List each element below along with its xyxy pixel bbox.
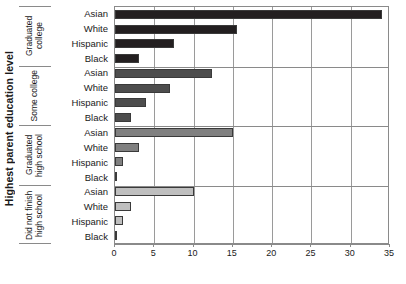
x-tick-label-0: 0: [111, 248, 116, 258]
group-label-text: Did not finish high school: [25, 187, 45, 243]
x-tick-mark-30: [350, 244, 351, 247]
bar-row: [115, 51, 388, 66]
category-group-graduated-high-school: AsianWhiteHispanicBlack: [52, 125, 112, 185]
category-label-asian: Asian: [52, 6, 112, 21]
bar-graduated-high-school-black: [115, 172, 117, 181]
bar-did-not-finish-high-school-asian: [115, 187, 194, 196]
bar-row: [115, 155, 388, 170]
x-tick-mark-10: [193, 244, 194, 247]
category-group-graduated-college: AsianWhiteHispanicBlack: [52, 6, 112, 66]
group-separator: [115, 126, 388, 127]
bars-container: [115, 7, 388, 243]
category-group-did-not-finish-high-school: AsianWhiteHispanicBlack: [52, 185, 112, 245]
bar-graduated-college-hispanic: [115, 39, 174, 48]
bar-graduated-high-school-white: [115, 143, 139, 152]
y-axis-title-label: Highest parent education level: [3, 51, 15, 206]
bar-graduated-college-black: [115, 54, 139, 63]
x-tick-mark-15: [232, 244, 233, 247]
bar-some-college-white: [115, 84, 170, 93]
category-label-hispanic: Hispanic: [52, 214, 112, 229]
category-label-hispanic: Hispanic: [52, 95, 112, 110]
bar-did-not-finish-high-school-black: [115, 231, 117, 240]
category-label-asian: Asian: [52, 125, 112, 140]
x-tick-label-10: 10: [188, 248, 198, 258]
category-label-white: White: [52, 199, 112, 214]
category-label-asian: Asian: [52, 185, 112, 200]
bar-row: [115, 214, 388, 229]
bar-row: [115, 125, 388, 140]
group-separator: [115, 186, 388, 187]
group-label-graduated-college: Graduated college: [19, 6, 51, 66]
bar-row: [115, 199, 388, 214]
x-tick-mark-5: [153, 244, 154, 247]
bar-row: [115, 66, 388, 81]
category-label-black: Black: [52, 170, 112, 185]
bar-graduated-high-school-asian: [115, 128, 233, 137]
group-label-text: Graduated college: [25, 8, 45, 64]
bar-row: [115, 7, 388, 22]
x-tick-mark-0: [114, 244, 115, 247]
y-axis-title: Highest parent education level: [0, 0, 18, 258]
bar-row: [115, 96, 388, 111]
group-label-graduated-high-school: Graduated high school: [19, 125, 51, 185]
category-label-column: AsianWhiteHispanicBlackAsianWhiteHispani…: [52, 6, 112, 244]
group-label-some-college: Some college: [19, 66, 51, 126]
bar-row: [115, 22, 388, 37]
group-label-text: Graduated high school: [25, 127, 45, 183]
x-tick-label-20: 20: [266, 248, 276, 258]
group-label-did-not-finish-high-school: Did not finish high school: [19, 185, 51, 245]
bar-chart: Highest parent education level Graduated…: [0, 0, 406, 284]
x-tick-label-5: 5: [151, 248, 156, 258]
x-tick-label-30: 30: [345, 248, 355, 258]
bar-graduated-college-white: [115, 25, 237, 34]
bar-row: [115, 110, 388, 125]
x-tick-label-35: 35: [384, 248, 394, 258]
category-label-black: Black: [52, 51, 112, 66]
bar-group-graduated-high-school: [115, 125, 388, 184]
bar-row: [115, 37, 388, 52]
category-label-black: Black: [52, 229, 112, 244]
category-label-white: White: [52, 140, 112, 155]
bar-group-some-college: [115, 66, 388, 125]
bar-group-graduated-college: [115, 7, 388, 66]
bar-row: [115, 140, 388, 155]
bar-graduated-college-asian: [115, 10, 382, 19]
category-label-white: White: [52, 21, 112, 36]
group-label-column: Graduated collegeSome collegeGraduated h…: [19, 6, 51, 244]
x-axis-ticks: 05101520253035: [114, 244, 389, 262]
x-tick-label-25: 25: [305, 248, 315, 258]
bar-some-college-asian: [115, 69, 212, 78]
bar-row: [115, 228, 388, 243]
bar-did-not-finish-high-school-white: [115, 202, 131, 211]
category-group-some-college: AsianWhiteHispanicBlack: [52, 66, 112, 126]
category-label-black: Black: [52, 110, 112, 125]
category-label-hispanic: Hispanic: [52, 155, 112, 170]
group-separator: [115, 67, 388, 68]
group-label-text: Some college: [30, 70, 40, 122]
bar-did-not-finish-high-school-hispanic: [115, 216, 123, 225]
x-tick-mark-35: [389, 244, 390, 247]
category-label-white: White: [52, 80, 112, 95]
category-label-asian: Asian: [52, 66, 112, 81]
category-label-hispanic: Hispanic: [52, 36, 112, 51]
x-tick-label-15: 15: [227, 248, 237, 258]
bar-row: [115, 169, 388, 184]
x-tick-mark-20: [271, 244, 272, 247]
bar-row: [115, 81, 388, 96]
bar-some-college-black: [115, 113, 131, 122]
bar-graduated-high-school-hispanic: [115, 157, 123, 166]
bar-group-did-not-finish-high-school: [115, 184, 388, 243]
plot-area: [114, 6, 389, 244]
x-tick-mark-25: [310, 244, 311, 247]
bar-some-college-hispanic: [115, 98, 146, 107]
